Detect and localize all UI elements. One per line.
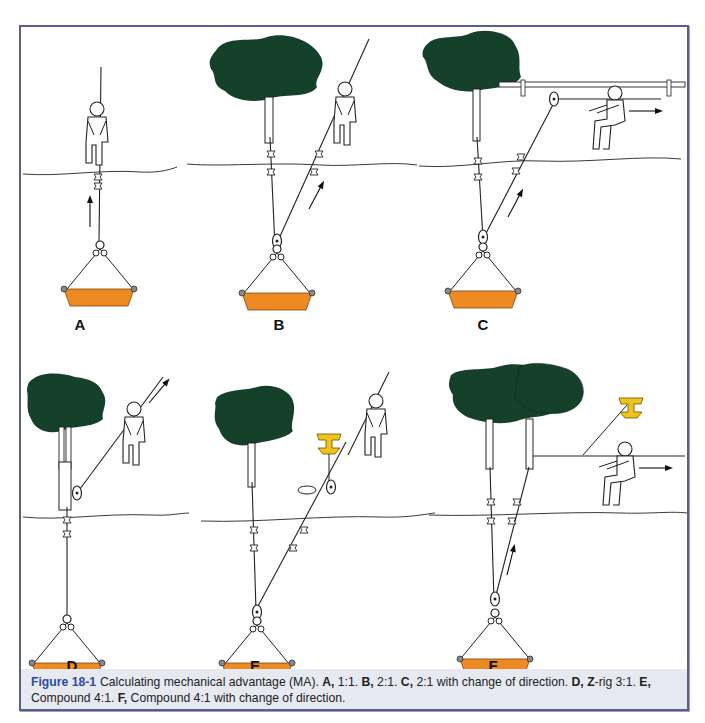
caption-seg-5: C, [401,675,413,689]
panel-c-drawing [419,31,685,308]
panel-label-b: B [274,316,285,333]
caption-seg-11: E, [639,675,651,689]
caption-seg-14: Compound 4:1 with change of direction. [127,691,345,705]
caption-seg-6: 2:1 with change of direction. [413,675,572,689]
caption-seg-3: B, [362,675,374,689]
panel-a-drawing [23,67,177,306]
figure-frame: A B C D E F Figure 18-1Calculating mecha… [19,25,689,711]
panel-label-c: C [478,316,489,333]
panel-d-drawing [23,374,189,674]
panel-label-a: A [75,316,86,333]
panel-e-drawing [201,372,435,673]
mechanical-advantage-illustration [21,27,687,673]
figure-caption: Figure 18-1Calculating mechanical advant… [21,669,687,709]
caption-seg-7: D, [572,675,584,689]
caption-seg-13: F, [118,691,127,705]
caption-seg-1: A, [322,675,334,689]
panel-b-drawing [187,35,417,310]
caption-seg-4: 2:1. [374,675,401,689]
caption-seg-12: Compound 4:1. [31,691,118,705]
caption-seg-10: -rig 3:1. [595,675,640,689]
figure-number: Figure 18-1 [31,675,96,689]
caption-seg-0: Calculating mechanical advantage (MA). [100,675,322,689]
caption-seg-2: 1:1. [334,675,361,689]
panel-f-drawing [429,363,687,673]
caption-seg-9: Z [587,675,594,689]
